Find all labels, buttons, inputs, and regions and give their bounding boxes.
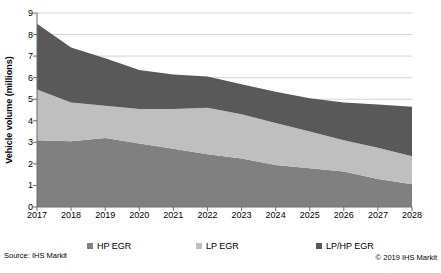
x-axis-tick-label: 2023 — [224, 210, 260, 220]
x-axis-tick-label: 2017 — [19, 210, 55, 220]
y-axis-tick-label: 9 — [0, 8, 33, 18]
y-axis-tick-label: 6 — [0, 73, 33, 83]
y-axis-tick-label: 1 — [0, 180, 33, 190]
legend-item-lp-hp-egr: LP/HP EGR — [316, 241, 374, 251]
x-axis-tick-label: 2019 — [87, 210, 123, 220]
y-axis-tick-label: 8 — [0, 30, 33, 40]
source-note: Source: IHS Markit — [4, 251, 67, 260]
y-axis-tick-label: 4 — [0, 116, 33, 126]
x-axis-tick-label: 2028 — [394, 210, 430, 220]
x-axis-tick-label: 2026 — [326, 210, 362, 220]
chart-canvas: Vehicle volume (millions) 0123456789 201… — [0, 0, 441, 273]
x-axis-tick-label: 2025 — [292, 210, 328, 220]
x-axis-tick-label: 2022 — [189, 210, 225, 220]
y-axis-tick-label: 3 — [0, 137, 33, 147]
copyright-note: © 2019 IHS Markit — [376, 253, 437, 262]
x-axis-tick-label: 2024 — [258, 210, 294, 220]
plot-area-svg — [30, 10, 420, 215]
y-axis-tick-label: 7 — [0, 51, 33, 61]
legend-label: LP EGR — [206, 241, 239, 251]
legend-label: LP/HP EGR — [326, 241, 374, 251]
legend-item-hp-egr: HP EGR — [87, 241, 131, 251]
legend-swatch-icon — [196, 243, 202, 249]
legend-swatch-icon — [316, 243, 322, 249]
y-axis-tick-label: 2 — [0, 159, 33, 169]
legend-item-lp-egr: LP EGR — [196, 241, 239, 251]
y-axis-tick-label: 5 — [0, 94, 33, 104]
legend-swatch-icon — [87, 243, 93, 249]
x-axis-tick-label: 2027 — [360, 210, 396, 220]
x-axis-tick-label: 2018 — [53, 210, 89, 220]
x-axis-tick-label: 2021 — [155, 210, 191, 220]
x-axis-tick-label: 2020 — [121, 210, 157, 220]
legend-label: HP EGR — [97, 241, 131, 251]
